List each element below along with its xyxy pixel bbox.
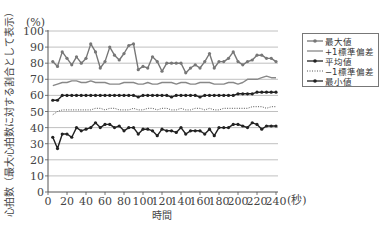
y-tick-label: 70: [30, 73, 44, 86]
x-tick-label: 200: [228, 195, 249, 208]
y-axis-title: 心拍数（最大心拍数に対する割合として表示）: [3, 7, 15, 217]
x-tick-label: 0: [45, 195, 52, 208]
series-+1標準偏差: [53, 76, 276, 86]
x-tick-label: 160: [190, 195, 211, 208]
y-tick-label: 0: [37, 186, 44, 199]
solid-line-icon: [307, 47, 323, 55]
marker-line-icon: [307, 77, 323, 85]
x-axis-ticks: 020406080100120140160180200220240: [45, 192, 287, 208]
grid-lines: [48, 31, 278, 176]
legend-label: 最小値: [325, 75, 352, 87]
x-tick-label: 80: [117, 195, 131, 208]
y-tick-label: 20: [30, 154, 44, 167]
y-tick-label: 10: [30, 170, 44, 183]
legend-item-min: 最小値: [307, 76, 378, 86]
x-unit-label: (秒): [287, 193, 307, 207]
x-tick-label: 140: [171, 195, 192, 208]
y-tick-label: 50: [30, 106, 44, 119]
axes: [48, 30, 278, 192]
x-tick-label: 220: [247, 195, 268, 208]
series-−1標準偏差: [53, 107, 276, 115]
chart-legend: 最大値 +1標準偏差 平均値 −1標準偏差 最小値: [302, 33, 379, 87]
y-tick-label: 60: [30, 89, 44, 102]
dotted-line-icon: [307, 67, 323, 75]
x-tick-label: 60: [98, 195, 112, 208]
series-平均値: [51, 91, 277, 102]
marker-line-icon: [307, 57, 323, 65]
y-tick-label: 30: [30, 138, 44, 151]
x-tick-label: 240: [266, 195, 287, 208]
data-series: [51, 42, 277, 150]
x-tick-label: 120: [152, 195, 173, 208]
x-axis-title: 時間: [152, 210, 172, 221]
series-最小値: [51, 121, 277, 150]
y-axis-ticks: 0102030405060708090100: [23, 25, 48, 199]
x-tick-label: 40: [79, 195, 93, 208]
marker-line-icon: [307, 37, 323, 45]
x-tick-label: 180: [209, 195, 230, 208]
y-tick-label: 90: [30, 41, 44, 54]
y-tick-label: 40: [30, 122, 44, 135]
y-unit-label: (%): [26, 16, 45, 29]
x-tick-label: 100: [133, 195, 154, 208]
y-tick-label: 80: [30, 57, 44, 70]
x-tick-label: 20: [60, 195, 74, 208]
